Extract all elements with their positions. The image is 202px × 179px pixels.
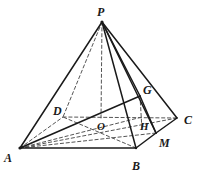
vertex-label-M: M <box>159 137 170 149</box>
vertex-label-D: D <box>53 105 62 117</box>
edge-M-C <box>156 118 177 133</box>
vertex-label-B: B <box>132 160 140 172</box>
edge-P-O <box>101 22 102 119</box>
vertex-label-G: G <box>143 84 152 96</box>
edge-B-M <box>136 133 156 148</box>
geometry-figure: P A B C D G H M O <box>0 0 202 179</box>
edge-P-G <box>102 22 140 96</box>
pyramid-diagram-svg <box>0 0 202 179</box>
vertex-label-P: P <box>97 6 104 18</box>
vertex-label-C: C <box>184 114 192 126</box>
edge-P-C <box>102 22 177 118</box>
edge-P-D <box>63 22 102 117</box>
vertex-dot-B <box>135 147 137 149</box>
edge-D-C <box>63 117 177 118</box>
vertex-dot-A <box>18 146 21 149</box>
vertex-label-H: H <box>140 121 149 132</box>
vertex-dot-P <box>100 20 103 23</box>
vertex-label-O: O <box>97 121 105 132</box>
vertex-label-A: A <box>4 152 12 164</box>
edge-P-A <box>20 22 102 148</box>
